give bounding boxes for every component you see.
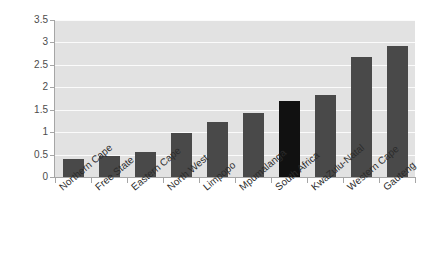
bar-chart: 3.532.521.510.50 Northern CapeFree State… [0, 0, 442, 267]
x-axis-category-label: Gauteng [381, 159, 417, 192]
x-axis-category-label: Limpopo [201, 159, 237, 192]
x-axis-category-labels: Northern CapeFree StateEastern CapeNorth… [0, 0, 442, 267]
